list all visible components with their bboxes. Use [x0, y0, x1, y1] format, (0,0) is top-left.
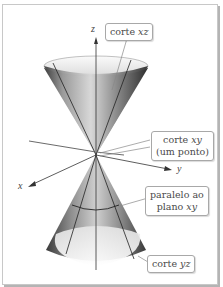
- callout-yz-section: corte yz: [147, 255, 195, 273]
- y-axis-arrow-icon: [164, 166, 172, 171]
- leader-xy-2: [100, 147, 150, 156]
- leader-xy-1: [100, 140, 150, 153]
- x-axis-back: [29, 141, 96, 152]
- x-axis-arrow-icon: [28, 181, 36, 187]
- callout-xy-section: corte xy (um ponto): [151, 131, 214, 161]
- leader-parallel: [120, 198, 148, 206]
- x-axis-label: x: [18, 180, 22, 191]
- z-axis-arrow-icon: [94, 37, 98, 44]
- callout-parallel-section: paralelo ao plano xy: [145, 186, 209, 216]
- z-axis-label: z: [91, 23, 95, 34]
- y-axis-label: y: [177, 163, 181, 174]
- callout-xz-section: corte xz: [105, 23, 153, 41]
